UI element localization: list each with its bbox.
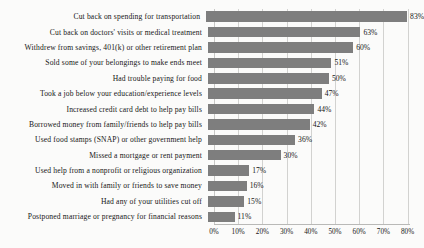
x-tick-label: 30% <box>280 227 293 237</box>
x-tick-label: 0% <box>209 227 219 237</box>
bar-rows: Cut back on spending for transportation8… <box>0 9 424 224</box>
bar <box>208 135 295 146</box>
bar-category-label: Withdrew from savings, 401(k) or other r… <box>0 43 208 52</box>
bar-value-label: 15% <box>244 197 261 206</box>
bar-value-label: 51% <box>331 58 348 67</box>
x-tick-label: 20% <box>256 227 269 237</box>
bar <box>208 165 249 176</box>
bar-track: 63% <box>208 24 424 39</box>
x-tick-label: 70% <box>377 227 390 237</box>
bar-track: 11% <box>208 209 424 224</box>
bar-value-label: 11% <box>235 212 252 221</box>
bar-row: Withdrew from savings, 401(k) or other r… <box>0 40 424 55</box>
bar-value-label: 16% <box>247 181 264 190</box>
bar-value-label: 30% <box>281 151 298 160</box>
bar-row: Sold some of your belongings to make end… <box>0 55 424 70</box>
bar-row: Took a job below your education/experien… <box>0 86 424 101</box>
bar-category-label: Had trouble paying for food <box>0 74 208 83</box>
bar-category-label: Postponed marriage or pregnancy for fina… <box>0 212 208 221</box>
bar-value-label: 63% <box>360 28 377 37</box>
bar-category-label: Increased credit card debt to help pay b… <box>0 105 208 114</box>
bar-row: Used help from a nonprofit or religious … <box>0 163 424 178</box>
x-tick-label: 50% <box>328 227 341 237</box>
bar-track: 51% <box>208 55 424 70</box>
bar-row: Cut back on doctors' visits or medical t… <box>0 24 424 39</box>
bar-track: 47% <box>208 86 424 101</box>
bar-track: 60% <box>208 40 424 55</box>
bar <box>208 119 310 130</box>
bar-track: 17% <box>208 163 424 178</box>
bar-row: Postponed marriage or pregnancy for fina… <box>0 209 424 224</box>
bar-track: 83% <box>206 9 424 24</box>
bar-track: 36% <box>208 132 424 147</box>
bar-row: Had any of your utilities cut off15% <box>0 194 424 209</box>
bar-track: 42% <box>208 117 424 132</box>
bar <box>208 88 322 99</box>
bar-row: Had trouble paying for food50% <box>0 71 424 86</box>
x-axis-tick-labels: 0%10%20%30%40%50%60%70%80% <box>214 227 410 239</box>
bar-category-label: Cut back on doctors' visits or medical t… <box>0 28 208 37</box>
bar-track: 15% <box>208 194 424 209</box>
bar-track: 16% <box>208 178 424 193</box>
bar-value-label: 47% <box>322 89 339 98</box>
bar-track: 30% <box>208 148 424 163</box>
x-tick-label: 60% <box>353 227 366 237</box>
bar <box>208 104 314 115</box>
x-tick-label: 40% <box>304 227 317 237</box>
bar-category-label: Missed a mortgage or rent payment <box>0 151 208 160</box>
bar <box>208 150 281 161</box>
bar <box>208 27 360 38</box>
bar <box>208 58 331 69</box>
bar-category-label: Sold some of your belongings to make end… <box>0 58 208 67</box>
bar-value-label: 17% <box>249 166 266 175</box>
bar-category-label: Used help from a nonprofit or religious … <box>0 166 208 175</box>
bar <box>208 73 329 84</box>
bar-value-label: 36% <box>295 135 312 144</box>
bar-row: Borrowed money from family/friends to he… <box>0 117 424 132</box>
x-tick-label: 10% <box>232 227 245 237</box>
bar <box>208 196 244 207</box>
bar-category-label: Had any of your utilities cut off <box>0 197 208 206</box>
bar <box>208 212 235 223</box>
bar-category-label: Moved in with family or friends to save … <box>0 181 208 190</box>
bar-value-label: 50% <box>329 74 346 83</box>
bar-category-label: Borrowed money from family/friends to he… <box>0 120 208 129</box>
bar-value-label: 44% <box>314 105 331 114</box>
bar-chart: Cut back on spending for transportation8… <box>0 0 424 248</box>
bar <box>208 181 247 192</box>
bar <box>206 11 407 22</box>
bar-track: 44% <box>208 101 424 116</box>
bar-category-label: Used food stamps (SNAP) or other governm… <box>0 135 208 144</box>
bar-row: Missed a mortgage or rent payment30% <box>0 148 424 163</box>
bar-row: Moved in with family or friends to save … <box>0 178 424 193</box>
bar-row: Increased credit card debt to help pay b… <box>0 101 424 116</box>
bar-row: Cut back on spending for transportation8… <box>0 9 424 24</box>
bar <box>208 42 353 53</box>
x-tick-label: 80% <box>401 227 414 237</box>
bar-category-label: Took a job below your education/experien… <box>0 89 208 98</box>
bar-value-label: 42% <box>310 120 327 129</box>
bar-row: Used food stamps (SNAP) or other governm… <box>0 132 424 147</box>
bar-track: 50% <box>208 71 424 86</box>
bar-value-label: 83% <box>407 12 424 21</box>
bar-category-label: Cut back on spending for transportation <box>0 12 206 21</box>
bar-value-label: 60% <box>353 43 370 52</box>
